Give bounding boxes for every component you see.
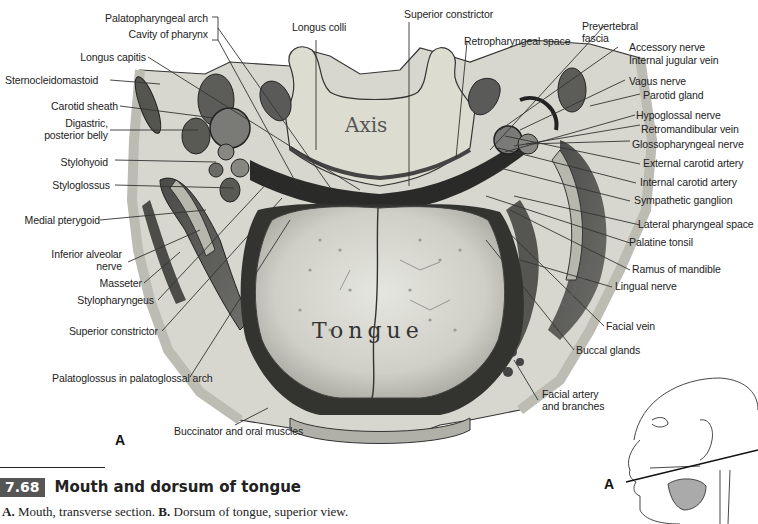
section-line	[626, 450, 758, 482]
figure-heading: 7.68 Mouth and dorsum of tongue	[0, 477, 301, 497]
label-longus-colli: Longus colli	[292, 21, 346, 33]
label-carotid-sheath: Carotid sheath	[51, 100, 118, 112]
label-internal-jugular-vein: Internal jugular vein	[629, 54, 719, 66]
label-glossopharyngeal-nerve: Glossopharyngeal nerve	[632, 138, 744, 150]
label-palatopharyngeal-arch: Palatopharyngeal arch	[105, 12, 208, 24]
caption-rule	[0, 467, 105, 468]
tongue-text: Tongue	[312, 318, 424, 343]
inset-letter-a: A	[604, 476, 614, 492]
label-palatine-tonsil: Palatine tonsil	[629, 236, 693, 248]
label-buccal-glands: Buccal glands	[576, 344, 640, 356]
label-styloglossus: Styloglossus	[52, 179, 110, 191]
figure-caption: A. Mouth, transverse section. B. Dorsum …	[2, 504, 348, 520]
label-vagus-nerve: Vagus nerve	[629, 75, 686, 87]
label-sympathetic-ganglion: Sympathetic ganglion	[634, 194, 732, 206]
caption-b-text: Dorsum of tongue, superior view.	[170, 504, 348, 519]
label-superior-constrictor-top: Superior constrictor	[404, 8, 493, 20]
label-stylopharyngeus: Stylopharyngeus	[77, 294, 154, 306]
label-external-carotid-artery: External carotid artery	[643, 157, 743, 169]
label-retromandibular-vein: Retromandibular vein	[641, 123, 739, 135]
panel-letter-a: A	[115, 432, 125, 448]
inset-head-drawing	[628, 378, 758, 524]
label-longus-capitis: Longus capitis	[80, 51, 146, 63]
caption-b-letter: B.	[158, 504, 170, 519]
label-superior-constrictor-left: Superior constrictor	[69, 325, 158, 337]
label-inferior-alveolar-nerve: Inferior alveolar nerve	[51, 248, 122, 272]
label-internal-carotid-artery: Internal carotid artery	[640, 176, 737, 188]
label-lingual-nerve: Lingual nerve	[615, 280, 677, 292]
label-accessory-nerve: Accessory nerve	[629, 41, 705, 53]
label-facial-vein: Facial vein	[606, 320, 655, 332]
label-digastric: Digastric, posterior belly	[44, 117, 108, 141]
label-lateral-pharyngeal-space: Lateral pharyngeal space	[638, 218, 754, 230]
label-palatoglossus: Palatoglossus in palatoglossal arch	[52, 372, 213, 384]
label-ramus-of-mandible: Ramus of mandible	[632, 263, 721, 275]
tongue	[255, 207, 504, 398]
label-parotid-gland: Parotid gland	[643, 89, 704, 101]
figure-number-badge: 7.68	[0, 478, 45, 497]
label-stylohyoid: Stylohyoid	[61, 156, 108, 168]
caption-a-text: Mouth, transverse section.	[15, 504, 159, 519]
label-medial-pterygoid: Medial pterygoid	[25, 214, 100, 226]
label-hypoglossal-nerve: Hypoglossal nerve	[636, 109, 721, 121]
label-cavity-of-pharynx: Cavity of pharynx	[129, 28, 208, 40]
caption-a-letter: A.	[2, 504, 15, 519]
label-masseter: Masseter	[100, 277, 142, 289]
axis-text: Axis	[345, 113, 387, 137]
label-facial-artery: Facial artery and branches	[542, 388, 604, 412]
label-buccinator: Buccinator and oral muscles	[174, 425, 303, 437]
figure-7-68: E.Blackstock Axis Tongue Palatopharyngea…	[0, 0, 758, 524]
label-retropharyngeal-space: Retropharyngeal space	[464, 35, 570, 47]
label-sternocleidomastoid: Sternocleidomastoid	[5, 74, 98, 86]
figure-title: Mouth and dorsum of tongue	[55, 478, 301, 496]
